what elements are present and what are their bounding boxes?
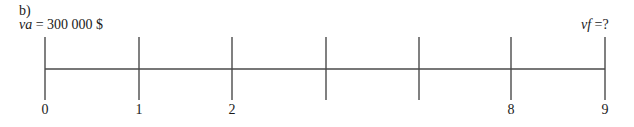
tick-label: 9 [595,102,615,118]
tick-label: 8 [501,102,521,118]
tick-label: 1 [129,102,149,118]
tick-label: 2 [222,102,242,118]
cash-flow-timeline [0,0,634,127]
tick-label: 0 [35,102,55,118]
